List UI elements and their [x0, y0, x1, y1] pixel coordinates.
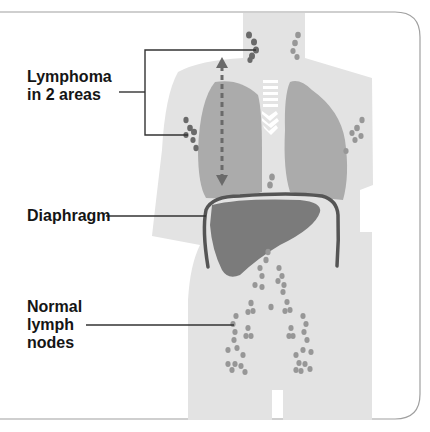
normal-lymph-nodes-label: Normal lymph nodes — [27, 298, 82, 352]
lymphoma-label: Lymphoma in 2 areas — [27, 68, 112, 104]
normal-label-line1: Normal — [27, 298, 82, 316]
lymphoma-label-line1: Lymphoma — [27, 68, 112, 86]
lymphoma-stage-diagram: Lymphoma in 2 areas Diaphragm Normal lym… — [0, 0, 430, 432]
left-lung — [198, 81, 262, 198]
normal-label-line2: lymph — [27, 316, 82, 334]
diaphragm-label: Diaphragm — [27, 207, 111, 225]
diaphragm-label-text: Diaphragm — [27, 207, 111, 225]
normal-label-line3: nodes — [27, 334, 82, 352]
lymphoma-label-line2: in 2 areas — [27, 86, 112, 104]
